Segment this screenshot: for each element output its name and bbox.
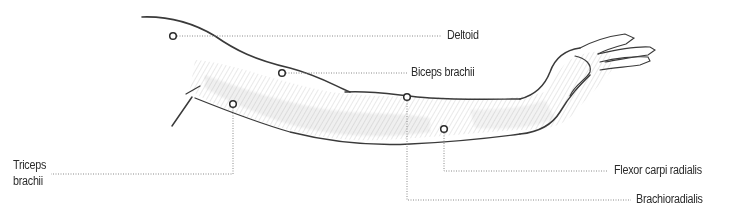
label-biceps-brachii: Biceps brachii <box>411 65 474 80</box>
label-triceps-brachii-line1: Triceps <box>13 158 46 173</box>
label-triceps-brachii-line2: brachii <box>13 174 43 189</box>
marker-triceps-brachii <box>230 101 237 108</box>
leader-triceps <box>51 108 233 174</box>
label-deltoid: Deltoid <box>447 28 479 43</box>
marker-deltoid <box>170 33 177 40</box>
arm-sketch-illustration <box>0 0 749 220</box>
marker-flexor-carpi-radialis <box>441 126 448 133</box>
arm-body <box>190 52 612 141</box>
arm-muscle-diagram: Deltoid Biceps brachii Triceps brachii F… <box>0 0 749 220</box>
leader-flexor <box>444 133 608 171</box>
label-brachioradialis: Brachioradialis <box>636 192 703 207</box>
marker-brachioradialis <box>404 94 411 101</box>
label-flexor-carpi-radialis: Flexor carpi radialis <box>614 163 702 178</box>
marker-biceps-brachii <box>279 70 286 77</box>
